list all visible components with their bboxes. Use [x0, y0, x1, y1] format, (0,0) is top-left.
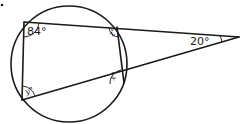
angle-arc-external: [220, 36, 222, 42]
angle-label-top-left: 84°: [27, 25, 47, 38]
question-marker-dot: [1, 4, 4, 7]
cyclic-quadrilateral-diagram: 84° z° x° y° 20°: [0, 0, 244, 124]
angle-label-y: y°: [23, 85, 35, 97]
angle-label-external: 20°: [190, 35, 210, 48]
circle: [11, 6, 127, 122]
